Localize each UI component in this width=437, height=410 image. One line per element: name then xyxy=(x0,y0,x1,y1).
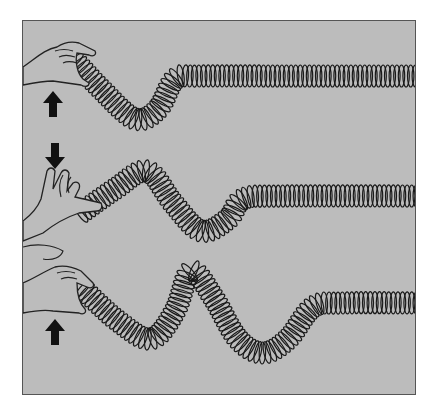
hand-1-icon xyxy=(23,42,96,86)
slinky-coil-3 xyxy=(73,260,416,364)
panel-2 xyxy=(23,143,416,243)
arrow-up-icon xyxy=(45,319,65,345)
slinky-coil-2 xyxy=(72,159,416,242)
slinky-coil-1 xyxy=(65,51,416,131)
arrow-down-icon xyxy=(45,143,65,169)
panel-3 xyxy=(23,245,416,364)
hand-2-icon xyxy=(23,168,102,241)
slinky-wave-illustration xyxy=(23,21,416,395)
illustration-frame: Slinky wave demonstration xyxy=(22,20,416,395)
arrow-up-icon xyxy=(43,91,63,117)
panel-1 xyxy=(23,42,416,131)
